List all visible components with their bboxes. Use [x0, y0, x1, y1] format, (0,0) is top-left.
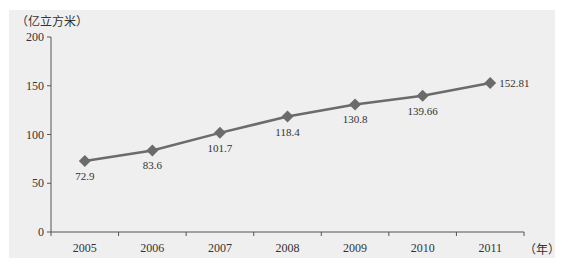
- x-tick-label: 2008: [276, 241, 300, 255]
- data-point-marker: [349, 98, 361, 110]
- y-tick-label: 150: [26, 79, 44, 93]
- y-tick-label: 0: [38, 225, 44, 239]
- x-tick-label: 2010: [411, 241, 435, 255]
- data-point-marker: [484, 77, 496, 89]
- data-label: 72.9: [75, 170, 95, 182]
- data-label: 139.66: [408, 105, 439, 117]
- x-tick-label: 2005: [73, 241, 97, 255]
- x-tick-label: 2009: [343, 241, 367, 255]
- data-point-marker: [79, 155, 91, 167]
- x-tick-label: 2011: [478, 241, 502, 255]
- data-label: 101.7: [208, 142, 233, 154]
- data-point-marker: [214, 127, 226, 139]
- data-label: 152.81: [499, 77, 529, 89]
- data-point-marker: [417, 90, 429, 102]
- data-point-marker: [282, 111, 294, 123]
- y-tick-label: 100: [26, 128, 44, 142]
- line-chart: 0501001502002005200620072008200920102011…: [0, 0, 563, 268]
- x-tick-label: 2007: [208, 241, 232, 255]
- data-point-marker: [146, 144, 158, 156]
- data-label: 130.8: [343, 113, 368, 125]
- y-tick-label: 50: [32, 176, 44, 190]
- y-tick-label: 200: [26, 30, 44, 44]
- x-tick-label: 2006: [140, 241, 164, 255]
- data-label: 118.4: [275, 126, 300, 138]
- data-label: 83.6: [143, 159, 163, 171]
